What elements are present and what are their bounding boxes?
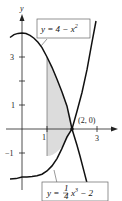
equation-cubic: y = bbox=[46, 188, 59, 198]
shaded-region bbox=[47, 57, 72, 156]
intersection-label: (2, 0) bbox=[78, 116, 96, 125]
y-axis-label: y bbox=[19, 4, 24, 13]
equation-cubic-tail: x3 − 2 bbox=[70, 187, 94, 198]
chart-canvas: y 3 1 −1 1 3 (2, 0) y = 4 − x2 y = 1 4 x… bbox=[0, 0, 122, 201]
x-axis-arrow-icon bbox=[111, 127, 118, 132]
x-tick-label-1: 1 bbox=[42, 133, 46, 142]
fraction-denominator: 4 bbox=[64, 191, 69, 201]
x-tick-label-3: 3 bbox=[95, 134, 99, 143]
intersection-point bbox=[70, 127, 74, 131]
y-axis-arrow-icon bbox=[20, 14, 25, 21]
equation-parabola: y = 4 − x2 bbox=[40, 23, 78, 34]
callout-leader-2 bbox=[54, 170, 57, 183]
callout-leader-1 bbox=[41, 39, 47, 46]
y-tick-label-3: 3 bbox=[10, 53, 14, 62]
y-tick-label-1: 1 bbox=[11, 101, 15, 110]
y-tick-label-neg1: −1 bbox=[5, 149, 14, 158]
